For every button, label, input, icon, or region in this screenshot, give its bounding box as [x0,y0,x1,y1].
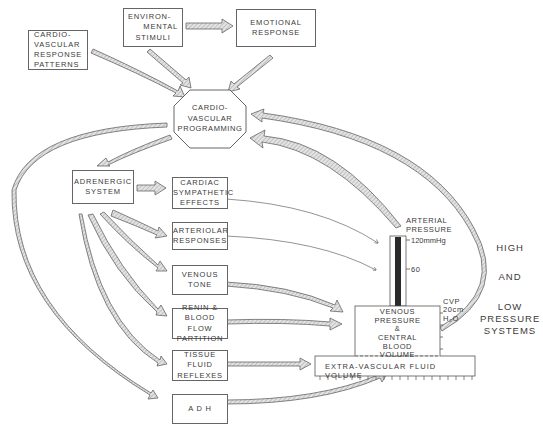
arrow-env-to-programming [147,49,191,88]
node-tissue-fluid: TISSUE FLUID REFLEXES [172,350,228,381]
node-text: SYMPATHETIC [173,188,227,198]
node-text: TISSUE [173,350,227,360]
node-adrenergic-system: ADRENERGIC SYSTEM [72,170,134,204]
node-text: EMOTIONAL [237,18,315,28]
node-text: SYSTEM [73,187,133,197]
thin-arrow-arteriolar-to-arterial [226,236,376,270]
node-text: CARDIO- [34,30,87,40]
node-text: PATTERNS [34,60,87,70]
node-cv-programming: CARDIO- VASCULAR PROGRAMMING [174,92,246,146]
node-cardiac-sympathetic: CARDIAC SYMPATHETIC EFFECTS [172,177,228,209]
side-text: AND [480,271,540,283]
node-renin-blood-flow: RENIN & BLOOD FLOW PARTITION [172,308,228,339]
node-text: VENOUS [173,270,227,280]
node-text: VASCULAR [174,114,246,125]
thin-arrow-cardiac-to-arterial [226,199,378,243]
node-text: RESPONSES [173,236,227,246]
side-text: HIGH [480,242,540,254]
node-text: STIMULI [124,33,182,43]
arterial-pressure-max: 120mmHg [411,236,446,245]
arrow-adrenergic-to-cardiac [137,181,166,195]
arterial-pressure-fill [395,237,401,306]
side-text: LOW [480,301,540,313]
node-text: ADRENERGIC [73,177,133,187]
node-extra-vascular: EXTRA-VASCULAR FLUID VOLUME [325,362,475,380]
node-text: VOLUME [355,351,440,360]
arrow-tissue-to-ev [226,358,311,370]
gauge-text: PRESSURE [406,225,452,234]
node-text: EFFECTS [173,198,227,208]
node-text: FLUID [173,360,227,370]
node-adh: A D H [172,394,228,424]
node-arteriolar-responses: ARTERIOLAR RESPONSES [172,222,228,250]
node-venous-tone: VENOUS TONE [172,265,228,295]
arrow-venous-to-vp [226,282,343,312]
arrow-emotional-to-programming [228,55,273,92]
node-text: RESPONSE [34,50,87,60]
node-text: VASCULAR [34,40,87,50]
node-text: ARTERIOLAR [173,226,227,236]
cvp-label: CVP 20cm H₂O [443,298,464,323]
node-text: PARTITION [173,334,227,344]
side-text: PRESSURE [480,313,540,325]
node-venous-pressure: VENOUS PRESSURE & CENTRAL BLOOD VOLUME [355,308,440,360]
node-text: A D H [173,404,227,414]
arrow-programming-to-adrenergic [97,135,172,166]
node-environmental-stimuli: ENVIRON- MENTAL STIMULI [123,8,183,47]
arrow-renin-to-vp [226,318,342,330]
gauge-text: H₂O [443,315,464,323]
node-text: CARDIO- [174,103,246,114]
arterial-pressure-mid: 60 [411,265,421,274]
node-cv-response-patterns: CARDIO- VASCULAR RESPONSE PATTERNS [28,30,88,70]
node-text: PROGRAMMING [174,124,246,135]
node-text: REFLEXES [173,371,227,381]
high-low-pressure-label: HIGH AND LOW PRESSURE SYSTEMS [480,242,540,338]
node-text: MENTAL [124,22,182,32]
node-text: ENVIRON- [124,12,182,22]
side-text: SYSTEMS [480,325,540,337]
arrow-env-to-emotional [186,19,233,33]
arterial-pressure-label: ARTERIAL PRESSURE [406,216,452,234]
node-text: RESPONSE [237,28,315,38]
node-text: CARDIAC [173,178,227,188]
node-text: BLOOD FLOW [173,313,227,333]
node-text: RENIN & [173,303,227,313]
gauge-text: ARTERIAL [406,216,452,225]
node-text: TONE [173,280,227,290]
node-emotional-response: EMOTIONAL RESPONSE [236,9,316,47]
